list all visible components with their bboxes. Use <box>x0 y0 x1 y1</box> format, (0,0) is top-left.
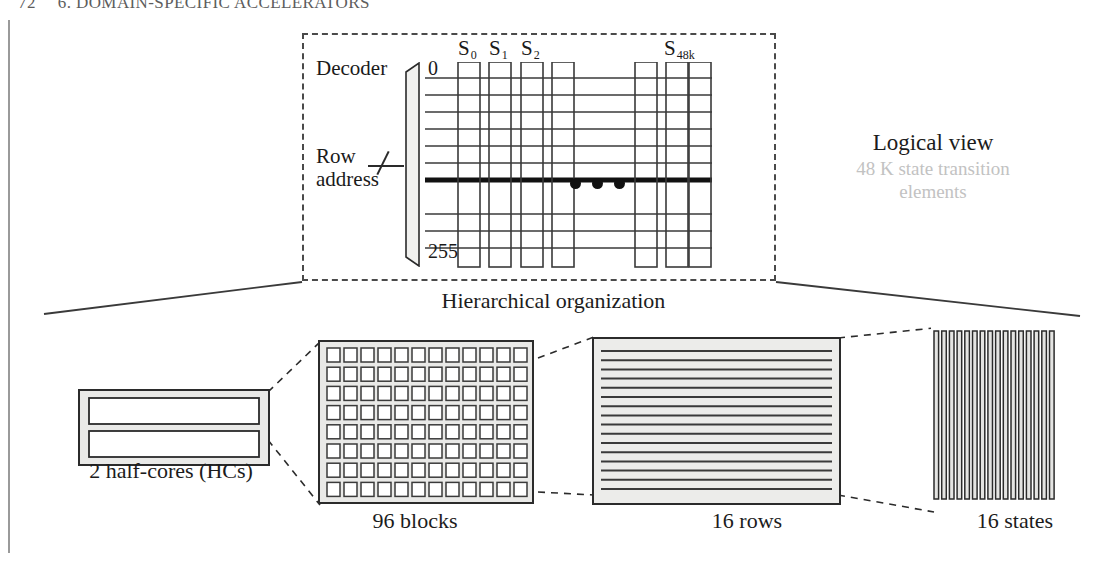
block-cell <box>327 406 340 420</box>
row-address-leader-line <box>368 165 404 167</box>
block-cell <box>463 444 476 458</box>
block-cell <box>378 444 391 458</box>
block-cell <box>395 463 408 477</box>
block-cell <box>429 444 442 458</box>
block-cell <box>429 482 442 496</box>
address-first: 0 <box>428 57 438 80</box>
state-bar <box>988 331 993 499</box>
block-cell <box>463 425 476 439</box>
block-cell <box>429 425 442 439</box>
block-cell <box>497 482 510 496</box>
block-cell <box>395 348 408 362</box>
state-bar <box>1034 331 1039 499</box>
block-cell <box>446 463 459 477</box>
block-cell <box>344 482 357 496</box>
block-cell <box>514 386 527 400</box>
block-cell <box>463 386 476 400</box>
panel-half-cores <box>78 389 270 466</box>
block-cell <box>497 367 510 381</box>
state-bar <box>934 331 939 499</box>
block-cell <box>429 386 442 400</box>
block-cell <box>514 406 527 420</box>
block-cell <box>463 406 476 420</box>
block-cell <box>412 444 425 458</box>
decoder-label: Decoder <box>316 56 387 81</box>
column-label-s1: S1 <box>489 36 507 61</box>
block-cell <box>378 406 391 420</box>
block-cell <box>378 367 391 381</box>
block-cell <box>514 425 527 439</box>
block-cell <box>378 482 391 496</box>
block-cell <box>327 444 340 458</box>
block-cell <box>327 386 340 400</box>
block-cell <box>344 463 357 477</box>
block-cell <box>480 482 493 496</box>
state-bar <box>957 331 962 499</box>
block-cell <box>361 406 374 420</box>
column-label-s2: S2 <box>521 36 539 61</box>
logical-view-caption: Logical view 48 K state transition eleme… <box>808 130 1058 204</box>
state-bar <box>1019 331 1024 499</box>
block-cell <box>514 463 527 477</box>
block-cell <box>480 406 493 420</box>
block-cell <box>378 463 391 477</box>
panel-states <box>931 327 1059 503</box>
state-bar <box>942 331 947 499</box>
block-cell <box>344 425 357 439</box>
block-cell <box>412 482 425 496</box>
block-cell <box>412 386 425 400</box>
block-cell <box>446 367 459 381</box>
ellipsis-dot <box>570 178 581 189</box>
caption-states: 16 states <box>930 508 1100 534</box>
state-bar <box>1011 331 1016 499</box>
panel-blocks <box>318 340 534 504</box>
block-cell <box>497 406 510 420</box>
block-cell <box>480 386 493 400</box>
block-cell <box>361 367 374 381</box>
block-cell <box>463 348 476 362</box>
block-cell <box>480 463 493 477</box>
state-bar <box>965 331 970 499</box>
block-cell <box>395 386 408 400</box>
block-cell <box>327 463 340 477</box>
ellipsis-dot <box>592 178 603 189</box>
block-cell <box>497 348 510 362</box>
block-cell <box>480 444 493 458</box>
panel-rows <box>592 337 841 505</box>
block-cell <box>497 444 510 458</box>
block-cell <box>344 367 357 381</box>
block-cell <box>361 425 374 439</box>
block-cell <box>361 463 374 477</box>
block-cell <box>378 348 391 362</box>
caption-rows: 16 rows <box>647 508 847 534</box>
block-cell <box>497 386 510 400</box>
block-cell <box>412 406 425 420</box>
state-bar <box>1026 331 1031 499</box>
row-address-label: Row address <box>316 145 379 190</box>
block-cell <box>446 406 459 420</box>
block-cell <box>497 425 510 439</box>
block-cell <box>361 482 374 496</box>
state-bar <box>1050 331 1055 499</box>
state-bar <box>996 331 1001 499</box>
block-cell <box>446 348 459 362</box>
block-cell <box>344 444 357 458</box>
block-cell <box>361 348 374 362</box>
block-cell <box>344 406 357 420</box>
block-cell <box>327 482 340 496</box>
block-cell <box>514 367 527 381</box>
array-ellipsis <box>570 178 625 189</box>
block-cell <box>361 386 374 400</box>
block-cell <box>395 406 408 420</box>
block-cell <box>327 425 340 439</box>
running-head-title: 6. DOMAIN-SPECIFIC ACCELERATORS <box>58 0 370 12</box>
block-cell <box>446 425 459 439</box>
caption-half-cores: 2 half-cores (HCs) <box>36 458 306 484</box>
column-label-s48k: S48k <box>664 36 694 61</box>
block-cell <box>327 367 340 381</box>
block-cell <box>429 367 442 381</box>
block-cell <box>378 425 391 439</box>
block-cell <box>395 482 408 496</box>
decoder-trapezoid <box>404 62 421 267</box>
state-bar <box>980 331 985 499</box>
